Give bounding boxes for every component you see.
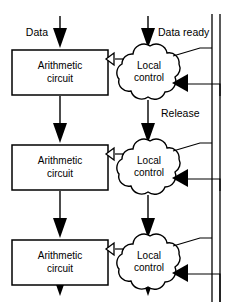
request-line-3	[186, 274, 220, 302]
handshake-rails	[212, 14, 220, 302]
stage-3-group: Arithmetic circuit Local control	[12, 234, 220, 302]
stage-1-group: Arithmetic circuit Local control	[12, 44, 220, 99]
arithmetic-circuit-label-2-line1: Arithmetic	[38, 155, 82, 166]
local-control-label-1-line2: control	[134, 72, 164, 83]
stage-2-group: Arithmetic circuit Local control	[12, 139, 220, 194]
local-control-label-3-line2: control	[134, 262, 164, 273]
ack-line-2	[173, 143, 212, 151]
ack-line-3	[173, 238, 212, 246]
data-stage2-to-stage3-arrowhead	[53, 218, 67, 238]
data-stage1-to-stage2-arrowhead	[53, 123, 67, 143]
data-input-arrowhead	[53, 28, 67, 48]
release-label: Release	[161, 107, 200, 119]
local-control-label-2-line1: Local	[137, 155, 161, 166]
ack-line-1	[173, 48, 212, 56]
pipeline-diagram: Arithmetic circuit Local control Arithme…	[0, 0, 229, 302]
diagram-canvas: Arithmetic circuit Local control Arithme…	[0, 0, 229, 302]
arithmetic-circuit-label-3-line2: circuit	[47, 263, 73, 274]
arithmetic-circuit-label-1-line2: circuit	[47, 73, 73, 84]
local-control-label-1-line1: Local	[137, 60, 161, 71]
data-input-label: Data	[26, 26, 48, 38]
arithmetic-circuit-label-3-line1: Arithmetic	[38, 250, 82, 261]
request-line-1	[186, 84, 220, 96]
request-line-2	[186, 179, 220, 191]
local-control-label-3-line1: Local	[137, 250, 161, 261]
arithmetic-circuit-label-2-line2: circuit	[47, 168, 73, 179]
data-ready-input-label: Data ready	[158, 26, 210, 38]
arithmetic-circuit-label-1-line1: Arithmetic	[38, 60, 82, 71]
local-control-label-2-line2: control	[134, 167, 164, 178]
